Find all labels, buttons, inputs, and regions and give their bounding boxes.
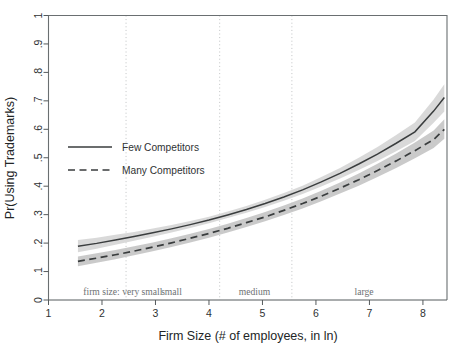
- y-tick-label-.2: .2: [32, 239, 44, 248]
- chart-background: [0, 0, 467, 346]
- legend-label-few-competitors: Few Competitors: [122, 142, 199, 153]
- x-axis-title: Firm Size (# of employees, in ln): [158, 329, 337, 343]
- x-tick-label-6: 6: [313, 307, 319, 319]
- category-label-3: large: [355, 286, 374, 297]
- y-tick-label-.5: .5: [32, 153, 44, 162]
- legend-label-many-competitors: Many Competitors: [122, 165, 205, 176]
- y-tick-label-.3: .3: [32, 210, 44, 219]
- trademark-probability-chart: 12345678 0.1.2.3.4.5.6.7.8.91 firm size:…: [0, 0, 467, 346]
- y-tick-label-0: 0: [32, 297, 44, 303]
- y-tick-label-.7: .7: [32, 96, 44, 105]
- x-tick-label-7: 7: [367, 307, 373, 319]
- category-label-2: medium: [239, 286, 271, 297]
- x-tick-label-4: 4: [206, 307, 212, 319]
- x-tick-label-8: 8: [420, 307, 426, 319]
- category-label-1: small: [161, 286, 182, 297]
- y-tick-label-1: 1: [32, 12, 44, 18]
- y-tick-label-.4: .4: [32, 182, 44, 191]
- y-tick-label-.8: .8: [32, 68, 44, 77]
- x-tick-label-3: 3: [153, 307, 159, 319]
- x-tick-label-2: 2: [99, 307, 105, 319]
- x-tick-label-5: 5: [260, 307, 266, 319]
- y-axis-title: Pr(Using Trademarks): [3, 97, 17, 219]
- y-tick-label-.6: .6: [32, 125, 44, 134]
- category-label-0: firm size: very small: [83, 286, 162, 297]
- chart-figure: 12345678 0.1.2.3.4.5.6.7.8.91 firm size:…: [0, 0, 467, 346]
- y-tick-label-.1: .1: [32, 267, 44, 276]
- y-tick-label-.9: .9: [32, 39, 44, 48]
- x-tick-label-1: 1: [46, 307, 52, 319]
